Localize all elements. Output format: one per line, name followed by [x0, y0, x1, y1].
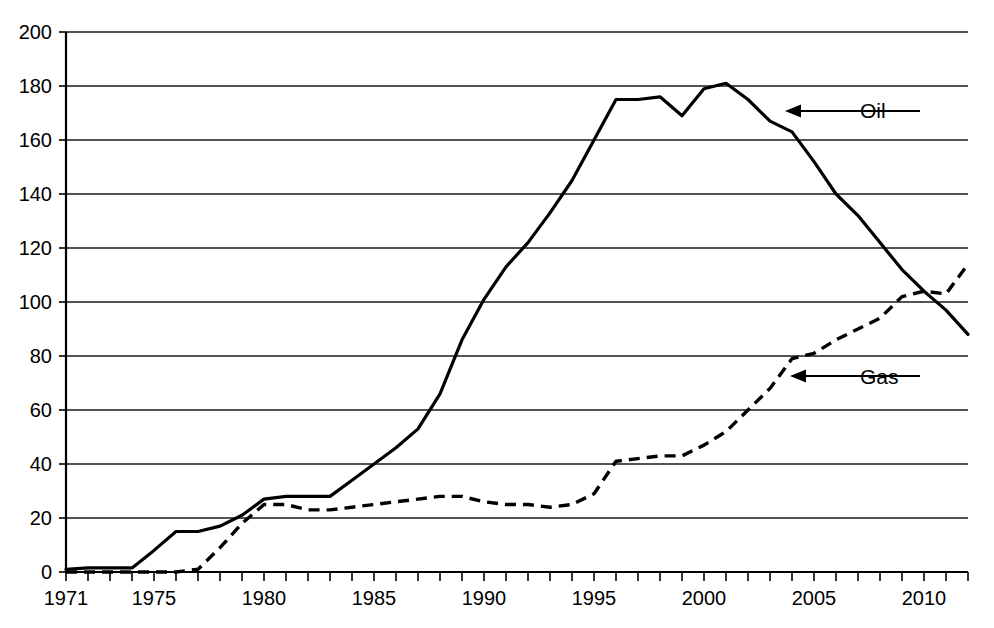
y-tick-label-100: 100 — [19, 291, 52, 313]
y-tick-label-140: 140 — [19, 183, 52, 205]
x-axis-tick-labels: 197119751980198519901995200020052010 — [44, 587, 947, 609]
gridlines — [66, 32, 968, 518]
x-tick-label-2000: 2000 — [682, 587, 727, 609]
y-tick-label-200: 200 — [19, 21, 52, 43]
y-axis-tick-labels: 020406080100120140160180200 — [19, 21, 52, 583]
x-tick-label-2010: 2010 — [902, 587, 947, 609]
x-tick-label-1971: 1971 — [44, 587, 89, 609]
x-axis-tickmarks — [66, 572, 968, 581]
series-line-oil — [66, 83, 968, 569]
x-tick-label-1990: 1990 — [462, 587, 507, 609]
y-tick-label-60: 60 — [30, 399, 52, 421]
y-tick-label-180: 180 — [19, 75, 52, 97]
annotation-arrow-head-oil — [785, 105, 801, 118]
y-tick-label-0: 0 — [41, 561, 52, 583]
x-tick-label-1985: 1985 — [352, 587, 397, 609]
x-tick-label-1980: 1980 — [242, 587, 287, 609]
annotation-label-oil: Oil — [860, 99, 886, 122]
y-tick-label-80: 80 — [30, 345, 52, 367]
y-tick-label-40: 40 — [30, 453, 52, 475]
annotation-label-gas: Gas — [860, 365, 899, 388]
annotation-arrow-head-gas — [790, 370, 806, 383]
y-tick-label-120: 120 — [19, 237, 52, 259]
series-line-gas — [66, 264, 968, 572]
chart-container: 020406080100120140160180200 197119751980… — [0, 0, 994, 628]
series-annotations: OilGas — [785, 99, 920, 388]
data-series — [66, 83, 968, 572]
x-tick-label-1995: 1995 — [572, 587, 617, 609]
x-tick-label-2005: 2005 — [792, 587, 837, 609]
line-chart: 020406080100120140160180200 197119751980… — [0, 0, 994, 628]
x-tick-label-1975: 1975 — [132, 587, 177, 609]
y-tick-label-20: 20 — [30, 507, 52, 529]
y-tick-label-160: 160 — [19, 129, 52, 151]
